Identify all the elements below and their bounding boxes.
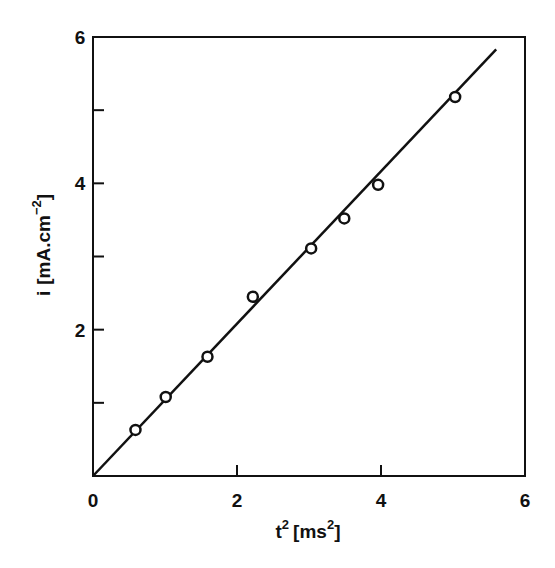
x-axis-label: t2[ms2]	[276, 517, 341, 542]
data-point-marker	[373, 180, 383, 190]
data-point-marker	[450, 92, 460, 102]
data-point-marker	[306, 243, 316, 253]
y-tick-label: 4	[75, 173, 86, 194]
y-axis-ticks: 246	[75, 27, 104, 403]
data-point-marker	[130, 425, 140, 435]
x-tick-label: 6	[520, 490, 531, 511]
x-tick-label: 0	[88, 490, 99, 511]
x-tick-label: 4	[376, 490, 387, 511]
x-tick-label: 2	[232, 490, 243, 511]
chart: 246 0246 t2[ms2] i[mA.cm−2]	[0, 0, 555, 568]
fit-line	[93, 49, 496, 476]
data-point-marker	[202, 352, 212, 362]
x-axis-ticks: 0246	[88, 465, 531, 511]
plot-frame	[93, 37, 525, 476]
data-point-marker	[248, 292, 258, 302]
y-tick-label: 6	[75, 27, 86, 48]
plot-area-border	[93, 37, 525, 476]
data-point-marker	[161, 392, 171, 402]
data-point-marker	[339, 213, 349, 223]
y-axis-label: i[mA.cm−2]	[29, 194, 54, 296]
regression-line	[93, 49, 496, 476]
y-tick-label: 2	[75, 320, 86, 341]
